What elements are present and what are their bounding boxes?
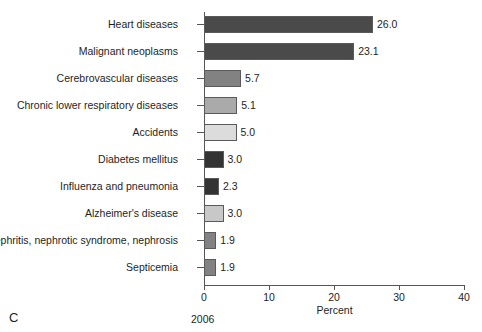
bar-row: Diabetes mellitus3.0 xyxy=(204,151,464,168)
bar xyxy=(204,124,237,141)
bar xyxy=(204,43,354,60)
category-label: Accidents xyxy=(132,124,178,141)
bar-value-label: 5.0 xyxy=(241,124,256,141)
bar xyxy=(204,259,216,276)
y-tick-mark xyxy=(197,213,204,214)
x-tick-label: 10 xyxy=(249,291,289,303)
plot-area: Heart diseases26.0Malignant neoplasms23.… xyxy=(204,12,464,285)
x-tick-label: 20 xyxy=(314,291,354,303)
x-tick-label: 0 xyxy=(184,291,224,303)
category-label: Diabetes mellitus xyxy=(98,151,178,168)
bar-value-label: 1.9 xyxy=(220,232,235,249)
y-tick-mark xyxy=(197,132,204,133)
category-label: Influenza and pneumonia xyxy=(60,178,178,195)
category-label: Chronic lower respiratory diseases xyxy=(17,97,178,114)
bar-row: Accidents5.0 xyxy=(204,124,464,141)
category-label: Cerebrovascular diseases xyxy=(57,70,178,87)
bar-row: Nephritis, nephrotic syndrome, nephrosis… xyxy=(204,232,464,249)
bar-value-label: 26.0 xyxy=(377,16,397,33)
x-tick-label: 40 xyxy=(444,291,482,303)
bar xyxy=(204,178,219,195)
x-tick-mark xyxy=(464,285,465,290)
bar-row: Alzheimer's disease3.0 xyxy=(204,205,464,222)
bar-row: Cerebrovascular diseases5.7 xyxy=(204,70,464,87)
bar xyxy=(204,232,216,249)
bar-row: Malignant neoplasms23.1 xyxy=(204,43,464,60)
x-tick-mark xyxy=(334,285,335,290)
x-axis-title: Percent xyxy=(204,304,465,316)
bar-row: Septicemia1.9 xyxy=(204,259,464,276)
x-tick-mark xyxy=(399,285,400,290)
bar-row: Heart diseases26.0 xyxy=(204,16,464,33)
bar xyxy=(204,151,224,168)
bar-value-label: 3.0 xyxy=(228,151,243,168)
y-tick-mark xyxy=(197,267,204,268)
category-label: Heart diseases xyxy=(108,16,178,33)
bar-value-label: 1.9 xyxy=(220,259,235,276)
category-label: Nephritis, nephrotic syndrome, nephrosis xyxy=(0,232,178,249)
bar-value-label: 5.7 xyxy=(245,70,260,87)
y-tick-mark xyxy=(197,51,204,52)
y-tick-mark xyxy=(197,240,204,241)
y-tick-mark xyxy=(197,186,204,187)
y-tick-mark xyxy=(197,105,204,106)
category-label: Malignant neoplasms xyxy=(79,43,178,60)
x-tick-mark xyxy=(269,285,270,290)
bar-value-label: 5.1 xyxy=(241,97,256,114)
x-tick-mark xyxy=(204,285,205,290)
panel-letter: C xyxy=(9,310,18,325)
bar-row: Influenza and pneumonia2.3 xyxy=(204,178,464,195)
category-label: Septicemia xyxy=(126,259,178,276)
bar-row: Chronic lower respiratory diseases5.1 xyxy=(204,97,464,114)
y-tick-mark xyxy=(197,24,204,25)
year-label: 2006 xyxy=(191,313,214,325)
bar xyxy=(204,70,241,87)
bar-value-label: 2.3 xyxy=(223,178,238,195)
chart-figure: Heart diseases26.0Malignant neoplasms23.… xyxy=(0,0,482,332)
y-tick-mark xyxy=(197,78,204,79)
y-tick-mark xyxy=(197,159,204,160)
bar-value-label: 23.1 xyxy=(358,43,378,60)
x-tick-label: 30 xyxy=(379,291,419,303)
category-label: Alzheimer's disease xyxy=(85,205,178,222)
bar xyxy=(204,97,237,114)
bar-value-label: 3.0 xyxy=(228,205,243,222)
bar xyxy=(204,205,224,222)
bar xyxy=(204,16,373,33)
